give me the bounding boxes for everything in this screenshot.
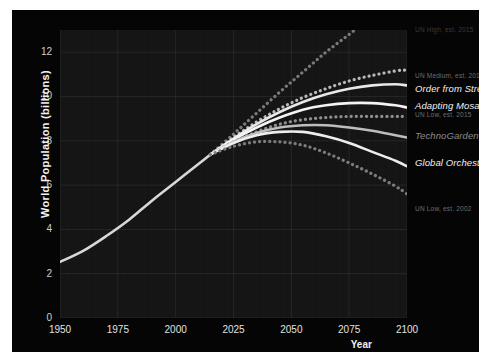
- x-tick-label: 2000: [156, 324, 196, 335]
- plot-area: [60, 30, 407, 318]
- figure-canvas: 121086420 1950197520002025205020752100 W…: [12, 10, 479, 352]
- x-axis-label: Year: [351, 339, 372, 350]
- series-historical: [60, 155, 210, 262]
- x-tick-label: 2050: [271, 324, 311, 335]
- x-tick-label: 2075: [329, 324, 369, 335]
- x-tick-label: 1950: [40, 324, 80, 335]
- gridlines: [60, 30, 407, 318]
- x-tick-label: 2025: [214, 324, 254, 335]
- legend-label-adapting-mosaic: Adapting Mosaic: [415, 100, 479, 111]
- series-un-low-est-2002: [210, 141, 407, 194]
- legend-label-global-orchestration: Global Orchestration: [415, 157, 479, 168]
- y-axis-label: World Population (billions): [39, 29, 51, 259]
- legend: UN High, est. 2015UN Medium, est. 2015Or…: [407, 20, 479, 352]
- figure-root: 121086420 1950197520002025205020752100 W…: [0, 0, 491, 364]
- y-tick-label: 2: [26, 269, 52, 279]
- legend-label-un-low-est-2002: UN Low, est. 2002: [415, 205, 472, 212]
- legend-label-technogarden: TechnoGarden: [415, 130, 479, 141]
- legend-label-order-from-strength: Order from Strength: [415, 83, 479, 94]
- y-tick-label: 0: [26, 313, 52, 323]
- legend-label-un-low-est-2015: UN Low, est. 2015: [415, 111, 472, 118]
- legend-label-un-high-est-2015: UN High, est. 2015: [415, 26, 474, 33]
- legend-label-un-medium-est-2015: UN Medium, est. 2015: [415, 72, 479, 79]
- x-tick-label: 1975: [98, 324, 138, 335]
- chart-plot: [60, 30, 407, 318]
